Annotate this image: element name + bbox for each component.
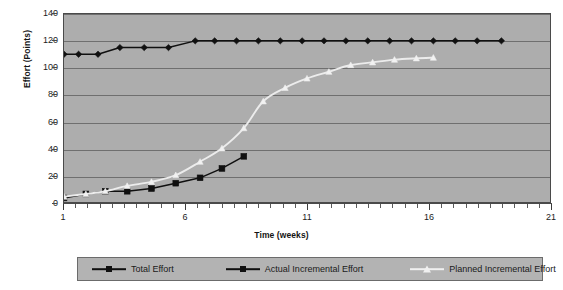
x-tick-minor [344, 204, 345, 208]
x-tick-minor [234, 204, 235, 208]
x-tick-major [551, 204, 552, 210]
x-tick-minor [368, 204, 369, 208]
x-tick-minor [222, 204, 223, 208]
x-tick-minor [136, 204, 137, 208]
x-tick-minor [209, 204, 210, 208]
x-tick-minor [148, 204, 149, 208]
x-tick-minor [490, 204, 491, 208]
x-tick-minor [502, 204, 503, 208]
x-tick-label: 21 [546, 212, 556, 222]
legend-label: Total Effort [131, 264, 174, 274]
x-tick-minor [392, 204, 393, 208]
x-tick-minor [75, 204, 76, 208]
legend-key-triangle-icon [410, 264, 444, 274]
x-tick-major [429, 204, 430, 210]
x-tick-minor [112, 204, 113, 208]
x-tick-minor [453, 204, 454, 208]
x-tick-minor [466, 204, 467, 208]
x-tick-major [307, 204, 308, 210]
x-tick-minor [417, 204, 418, 208]
x-axis-title: Time (weeks) [0, 230, 563, 240]
chart-legend: Total EffortActual Incremental EffortPla… [77, 257, 543, 281]
x-tick-minor [539, 204, 540, 208]
legend-item[interactable]: Planned Incremental Effort [410, 258, 555, 280]
x-tick-minor [100, 204, 101, 208]
x-tick-minor [527, 204, 528, 208]
x-tick-minor [270, 204, 271, 208]
x-tick-minor [258, 204, 259, 208]
legend-item[interactable]: Actual Incremental Effort [226, 258, 363, 280]
x-tick-label: 1 [60, 212, 65, 222]
x-tick-minor [441, 204, 442, 208]
x-tick-minor [173, 204, 174, 208]
x-axis-ticks: 16111621 [0, 0, 563, 290]
legend-marker [240, 266, 246, 272]
x-tick-minor [380, 204, 381, 208]
legend-key-diamond-icon [92, 264, 126, 274]
x-tick-minor [478, 204, 479, 208]
legend-marker [106, 266, 112, 272]
legend-label: Actual Incremental Effort [265, 264, 363, 274]
x-tick-minor [197, 204, 198, 208]
x-tick-major [185, 204, 186, 210]
x-tick-minor [295, 204, 296, 208]
x-tick-minor [161, 204, 162, 208]
legend-item[interactable]: Total Effort [92, 258, 174, 280]
legend-key-square-icon [226, 264, 260, 274]
x-tick-minor [331, 204, 332, 208]
x-tick-label: 16 [424, 212, 434, 222]
chart-root: Effort (Points) 020406080100120140 16111… [0, 0, 563, 290]
x-tick-minor [319, 204, 320, 208]
x-tick-label: 11 [302, 212, 311, 222]
legend-marker [423, 266, 431, 273]
x-tick-minor [405, 204, 406, 208]
x-tick-minor [514, 204, 515, 208]
legend-label: Planned Incremental Effort [449, 264, 555, 274]
x-tick-major [63, 204, 64, 210]
x-tick-label: 6 [182, 212, 187, 222]
x-tick-minor [283, 204, 284, 208]
x-tick-minor [246, 204, 247, 208]
x-tick-minor [356, 204, 357, 208]
x-tick-minor [87, 204, 88, 208]
x-tick-minor [124, 204, 125, 208]
